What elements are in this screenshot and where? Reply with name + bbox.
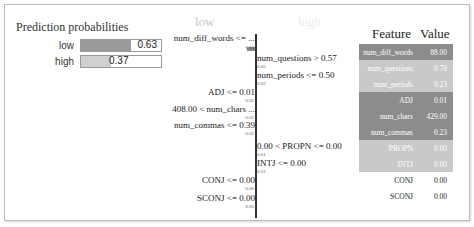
table-cell-feature: num_periods bbox=[374, 80, 413, 89]
table-cell-value: 0.00 bbox=[434, 176, 447, 185]
feature-label: 0.00 < PROPN <= 0.00 bbox=[257, 141, 342, 151]
table-cell-feature: SCONJ bbox=[390, 192, 413, 201]
probability-value: 0.37 bbox=[109, 55, 128, 66]
table-row: INTJ 0.00 bbox=[359, 156, 453, 172]
feature-weight: 0.02 bbox=[245, 98, 254, 103]
feature-label: num_periods <= 0.50 bbox=[257, 70, 334, 80]
class-label-high: high bbox=[298, 14, 321, 30]
feature-weight: 0.02 bbox=[257, 81, 266, 86]
feature-label: ADJ <= 0.01 bbox=[208, 87, 255, 97]
feature-label: num_diff_words <= ... bbox=[174, 33, 255, 43]
table-row: SCONJ 0.00 bbox=[359, 188, 453, 204]
class-label-low: low bbox=[195, 14, 215, 30]
table-header-value: Value bbox=[420, 26, 450, 42]
table-cell-value: 0.23 bbox=[434, 128, 447, 137]
probability-value: 0.63 bbox=[138, 39, 157, 50]
table-row: num_periods 0.23 bbox=[359, 76, 453, 92]
table-row: ADJ 0.01 bbox=[359, 92, 453, 108]
table-cell-value: 88.00 bbox=[430, 48, 447, 57]
table-cell-feature: CONJ bbox=[394, 176, 413, 185]
feature-label: CONJ <= 0.00 bbox=[202, 175, 255, 185]
feature-weight: 0.01 bbox=[257, 169, 266, 174]
table-cell-value: 0.70 bbox=[434, 64, 447, 73]
probability-bar: 0.37 bbox=[80, 55, 162, 68]
feature-label: SCONJ <= 0.00 bbox=[197, 193, 255, 203]
feature-weight: 0.04 bbox=[245, 45, 254, 50]
feature-weight: 0.00 bbox=[245, 204, 254, 209]
probability-label: high bbox=[40, 56, 80, 67]
table-row: num_commas 0.23 bbox=[359, 124, 453, 140]
table-cell-value: 0.00 bbox=[434, 144, 447, 153]
feature-weight: 0.00 bbox=[245, 186, 254, 191]
feature-weight: 0.02 bbox=[257, 64, 266, 69]
prediction-probabilities-title: Prediction probabilities bbox=[16, 20, 128, 35]
table-cell-feature: num_chars bbox=[380, 112, 413, 121]
feature-label: 408.00 < num_chars ... bbox=[172, 104, 255, 114]
table-row: PROPN 0.00 bbox=[359, 140, 453, 156]
probability-fill bbox=[81, 40, 131, 51]
table-cell-feature: num_commas bbox=[371, 128, 413, 137]
table-cell-value: 0.01 bbox=[434, 96, 447, 105]
table-cell-feature: num_questions bbox=[368, 64, 413, 73]
probability-bar: 0.63 bbox=[80, 39, 162, 52]
probability-row-low: low 0.63 bbox=[40, 39, 162, 52]
table-cell-value: 429.00 bbox=[426, 112, 447, 121]
table-cell-feature: PROPN bbox=[389, 144, 413, 153]
feature-label: num_questions > 0.57 bbox=[257, 53, 337, 63]
table-row: CONJ 0.00 bbox=[359, 172, 453, 188]
table-cell-feature: ADJ bbox=[399, 96, 413, 105]
table-cell-value: 0.23 bbox=[434, 80, 447, 89]
feature-weight: 0.02 bbox=[245, 131, 254, 136]
probability-label: low bbox=[40, 40, 80, 51]
table-cell-feature: INTJ bbox=[398, 160, 413, 169]
table-header-feature: Feature bbox=[372, 26, 411, 42]
feature-weight: 0.01 bbox=[257, 152, 266, 157]
probability-row-high: high 0.37 bbox=[40, 55, 162, 68]
table-cell-feature: num_diff_words bbox=[363, 48, 413, 57]
feature-label: INTJ <= 0.00 bbox=[257, 158, 306, 168]
table-row: num_diff_words 88.00 bbox=[359, 44, 453, 60]
feature-label: num_commas <= 0.39 bbox=[174, 120, 255, 130]
table-row: num_questions 0.70 bbox=[359, 60, 453, 76]
table-cell-value: 0.00 bbox=[434, 192, 447, 201]
table-cell-value: 0.00 bbox=[434, 160, 447, 169]
probability-fill bbox=[81, 56, 111, 67]
table-row: num_chars 429.00 bbox=[359, 108, 453, 124]
